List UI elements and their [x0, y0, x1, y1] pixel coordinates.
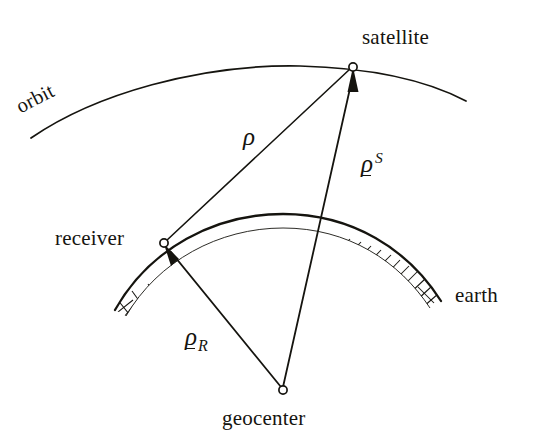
label-geocenter: geocenter: [222, 408, 305, 429]
label-earth: earth: [455, 285, 498, 306]
label-rho: ρ: [243, 124, 255, 149]
label-rho-superscript-s: ρS: [361, 150, 383, 177]
rho-vector-glyph: ρ: [361, 151, 373, 177]
subscript-r: R: [198, 337, 208, 354]
node-geocenter-marker: [279, 386, 287, 394]
label-rho-subscript-r: ρR: [185, 324, 208, 354]
rho-glyph: ρ: [243, 123, 255, 150]
label-receiver: receiver: [55, 228, 124, 249]
diagram-svg: [0, 0, 547, 446]
earth-band-inner-arc: [126, 228, 430, 316]
figure-canvas: orbit satellite receiver earth geocenter…: [0, 0, 547, 446]
superscript-s: S: [375, 149, 383, 166]
vector-rho-r-line: [171, 252, 281, 387]
rho-vector-glyph: ρ: [185, 324, 197, 350]
node-receiver-marker: [160, 239, 168, 247]
label-satellite: satellite: [362, 27, 429, 48]
node-satellite-marker: [349, 63, 357, 71]
